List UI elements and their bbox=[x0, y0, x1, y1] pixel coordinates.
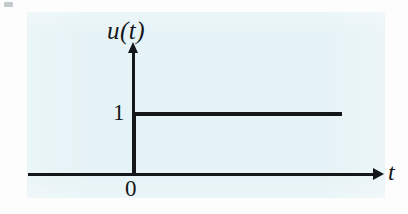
scan-artifact-speck bbox=[4, 2, 13, 7]
scanned-page-background bbox=[27, 12, 385, 198]
y-axis-tick-label-one: 1 bbox=[113, 101, 125, 124]
x-axis-label: t bbox=[388, 160, 395, 184]
t-axis-arrowhead-icon bbox=[373, 168, 384, 180]
y-axis-label: u(t) bbox=[107, 18, 145, 43]
figure-canvas: u(t) 1 0 t bbox=[0, 0, 408, 214]
step-function-riser bbox=[132, 112, 136, 175]
t-axis-line bbox=[28, 173, 379, 176]
step-function-plateau bbox=[132, 112, 342, 116]
origin-tick-label-zero: 0 bbox=[125, 177, 137, 200]
